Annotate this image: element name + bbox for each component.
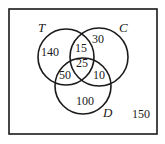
region-c-only: 30	[92, 32, 104, 46]
set-label-d: D	[102, 105, 113, 120]
region-t-c-d: 25	[76, 56, 88, 70]
region-outside: 150	[132, 107, 150, 121]
region-c-d: 10	[93, 68, 105, 82]
set-label-t: T	[38, 20, 46, 35]
region-d-only: 100	[76, 94, 94, 108]
region-t-d: 50	[59, 68, 71, 82]
venn-diagram: T C D 140 30 100 15 50 10 25 150	[0, 0, 165, 144]
region-t-only: 140	[41, 45, 59, 59]
region-t-c: 15	[75, 41, 87, 55]
set-label-c: C	[119, 20, 128, 35]
